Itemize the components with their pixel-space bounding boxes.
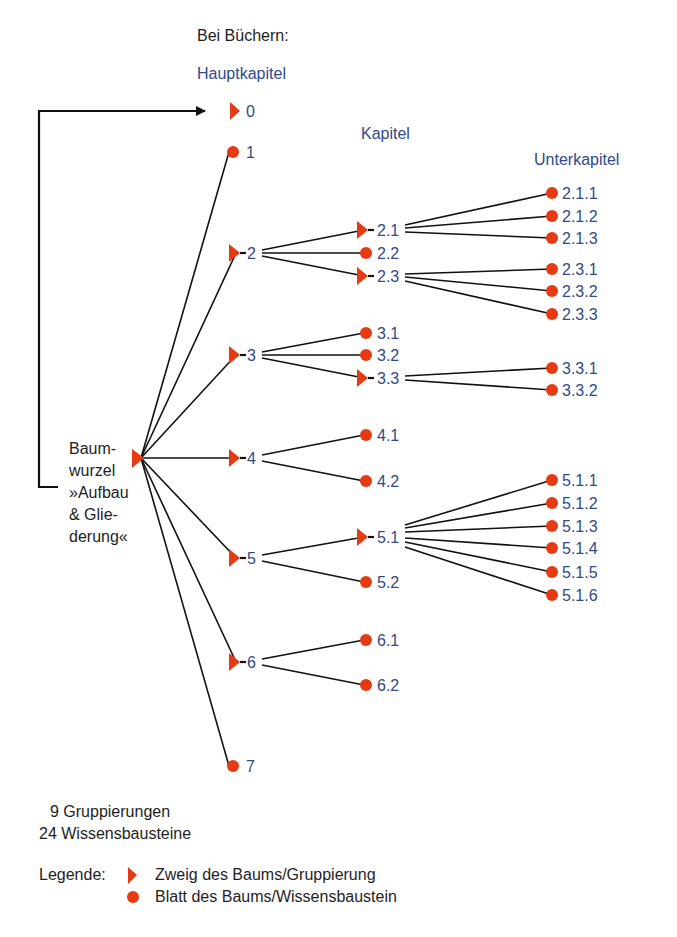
legend-title: Legende: bbox=[39, 866, 106, 883]
node-label: 4 bbox=[247, 450, 256, 467]
branch-icon bbox=[229, 549, 240, 567]
node-5-1-3[interactable]: 5.1.3 bbox=[546, 518, 598, 535]
branch-icon bbox=[229, 244, 240, 262]
node-label: 3.3 bbox=[377, 370, 399, 387]
node-label: 6.2 bbox=[377, 677, 399, 694]
context-label: Bei Büchern: bbox=[197, 27, 289, 44]
leaf-icon bbox=[227, 146, 239, 158]
legend-branch-icon bbox=[128, 867, 137, 884]
node-0[interactable]: 0 bbox=[230, 102, 255, 120]
node-label: 4.1 bbox=[377, 427, 399, 444]
svg-text:wurzel: wurzel bbox=[68, 462, 115, 479]
node-6-2[interactable]: 6.2 bbox=[360, 677, 399, 694]
node-label: 5.1 bbox=[377, 529, 399, 546]
svg-text:& Glie-: & Glie- bbox=[69, 506, 118, 523]
node-5-1[interactable]: 5.1 bbox=[357, 528, 399, 546]
leaf-icon bbox=[546, 566, 558, 578]
branch-icon bbox=[357, 528, 368, 546]
leaf-icon bbox=[546, 362, 558, 374]
node-1[interactable]: 1 bbox=[227, 144, 255, 161]
leaf-icon bbox=[546, 210, 558, 222]
summary-modules: 24 Wissensbausteine bbox=[39, 825, 191, 842]
node-3-1[interactable]: 3.1 bbox=[360, 325, 399, 342]
node-3-3-2[interactable]: 3.3.2 bbox=[546, 382, 598, 399]
node-5-2[interactable]: 5.2 bbox=[360, 574, 399, 591]
leaf-icon bbox=[360, 679, 372, 691]
node-label: 2.3.1 bbox=[562, 261, 598, 278]
node-label: 3.3.2 bbox=[562, 382, 598, 399]
edges-level2 bbox=[262, 230, 364, 685]
node-label: 4.2 bbox=[377, 473, 399, 490]
node-label: 5.1.1 bbox=[562, 472, 598, 489]
node-label: 6.1 bbox=[377, 632, 399, 649]
node-label: 2.1 bbox=[377, 222, 399, 239]
node-4-1[interactable]: 4.1 bbox=[360, 427, 399, 444]
leaf-icon bbox=[546, 384, 558, 396]
node-4-2[interactable]: 4.2 bbox=[360, 473, 399, 490]
leaf-icon bbox=[546, 285, 558, 297]
leaf-icon bbox=[227, 760, 239, 772]
branch-icon bbox=[229, 346, 240, 364]
node-2-1-1[interactable]: 2.1.1 bbox=[546, 185, 598, 202]
node-2-3-3[interactable]: 2.3.3 bbox=[546, 306, 598, 323]
node-3-2[interactable]: 3.2 bbox=[360, 347, 399, 364]
node-2-1-2[interactable]: 2.1.2 bbox=[546, 208, 598, 225]
root-to-0-arrow bbox=[39, 111, 205, 487]
leaf-icon bbox=[546, 497, 558, 509]
node-2-1[interactable]: 2.1 bbox=[357, 221, 399, 239]
node-label: 3.3.1 bbox=[562, 360, 598, 377]
node-6-1[interactable]: 6.1 bbox=[360, 632, 399, 649]
leaf-icon bbox=[360, 634, 372, 646]
node-label: 0 bbox=[246, 103, 255, 120]
branch-icon bbox=[229, 449, 240, 467]
branch-icon bbox=[229, 653, 240, 671]
node-5-1-6[interactable]: 5.1.6 bbox=[546, 587, 598, 604]
knowledge-tree-diagram: Bei Büchern: Hauptkapitel Kapitel Unterk… bbox=[0, 0, 677, 937]
legend-leaf-label: Blatt des Baums/Wissensbaustein bbox=[155, 888, 397, 905]
node-label: 5.1.2 bbox=[562, 495, 598, 512]
legend-branch-label: Zweig des Baums/Gruppierung bbox=[155, 866, 376, 883]
leaf-icon bbox=[360, 327, 372, 339]
node-7[interactable]: 7 bbox=[227, 758, 255, 775]
node-label: 6 bbox=[247, 654, 256, 671]
branch-icon bbox=[230, 102, 240, 120]
leaf-icon bbox=[546, 542, 558, 554]
node-2-3-1[interactable]: 2.3.1 bbox=[546, 261, 598, 278]
node-3-3[interactable]: 3.3 bbox=[357, 369, 399, 387]
node-label: 3 bbox=[247, 347, 256, 364]
node-3-3-1[interactable]: 3.3.1 bbox=[546, 360, 598, 377]
leaf-icon bbox=[546, 589, 558, 601]
node-label: 1 bbox=[246, 144, 255, 161]
node-label: 2 bbox=[247, 245, 256, 262]
legend-leaf-icon bbox=[127, 891, 139, 903]
root-label: Baum- wurzel »Aufbau & Glie- derung« bbox=[68, 440, 129, 545]
node-5-1-2[interactable]: 5.1.2 bbox=[546, 495, 598, 512]
node-5-1-5[interactable]: 5.1.5 bbox=[546, 564, 598, 581]
node-label: 2.3 bbox=[377, 268, 399, 285]
node-label: 2.1.1 bbox=[562, 185, 598, 202]
node-5-1-1[interactable]: 5.1.1 bbox=[546, 472, 598, 489]
node-2-3-2[interactable]: 2.3.2 bbox=[546, 283, 598, 300]
summary-groupings: 9 Gruppierungen bbox=[50, 803, 170, 820]
node-2-1-3[interactable]: 2.1.3 bbox=[546, 230, 598, 247]
node-2-2[interactable]: 2.2 bbox=[360, 245, 399, 262]
node-label: 7 bbox=[246, 758, 255, 775]
leaf-icon bbox=[546, 232, 558, 244]
node-label: 5.1.6 bbox=[562, 587, 598, 604]
node-label: 5.2 bbox=[377, 574, 399, 591]
leaf-icon bbox=[546, 308, 558, 320]
branch-icon bbox=[357, 221, 368, 239]
branch-icon bbox=[357, 369, 368, 387]
node-label: 2.2 bbox=[377, 245, 399, 262]
leaf-icon bbox=[360, 429, 372, 441]
node-5-1-4[interactable]: 5.1.4 bbox=[546, 540, 598, 557]
edges-level3 bbox=[405, 193, 552, 595]
level-label-sub: Unterkapitel bbox=[534, 151, 619, 168]
node-label: 5.1.3 bbox=[562, 518, 598, 535]
leaf-icon bbox=[360, 349, 372, 361]
node-label: 3.2 bbox=[377, 347, 399, 364]
node-label: 2.1.2 bbox=[562, 208, 598, 225]
svg-text:»Aufbau: »Aufbau bbox=[69, 484, 129, 501]
node-label: 5.1.5 bbox=[562, 564, 598, 581]
node-2-3[interactable]: 2.3 bbox=[357, 267, 399, 285]
